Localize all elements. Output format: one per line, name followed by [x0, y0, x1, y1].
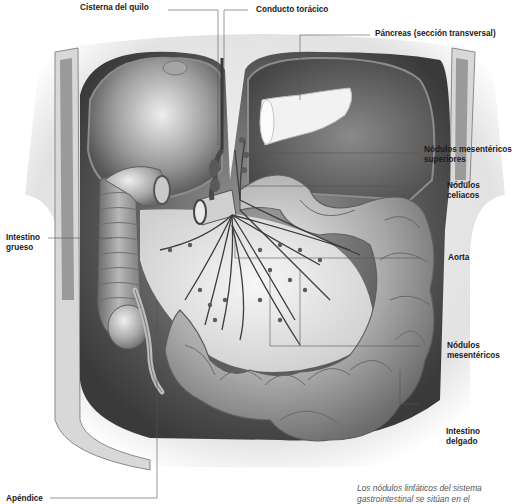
label-text-line2: delgado [446, 437, 480, 447]
label-intestino-delgado: Intestino delgado [446, 427, 480, 447]
label-text-line2: superiores [424, 155, 512, 165]
label-apendice: Apéndice [6, 494, 43, 504]
label-text: Cisterna del quilo [80, 3, 149, 13]
label-cisterna-del-quilo: Cisterna del quilo [80, 3, 149, 13]
label-text-line2: grueso [6, 243, 40, 253]
label-conducto-toracico: Conducto torácico [256, 5, 328, 15]
label-text-line1: Nódulos [447, 181, 480, 191]
label-text-line1: Nódulos mesentéricos [424, 145, 512, 155]
label-pancreas: Páncreas (sección transversal) [375, 29, 496, 39]
caption-line2: gastrointestinal se sitúan en el [357, 494, 482, 504]
label-nodulos-mesentericos: Nódulos mesentéricos [447, 341, 500, 361]
label-intestino-grueso: Intestino grueso [6, 233, 40, 253]
anatomy-figure: Cisterna del quilo Conducto torácico Pán… [0, 0, 530, 504]
label-nodulos-celiacos: Nódulos celiacos [447, 181, 480, 201]
figure-caption: Los nódulos linfáticos del sistema gastr… [357, 483, 482, 504]
label-text: Apéndice [6, 494, 43, 504]
label-text: Páncreas (sección transversal) [375, 29, 496, 39]
label-text: Conducto torácico [256, 5, 328, 15]
label-text: Aorta [448, 253, 469, 263]
label-aorta: Aorta [448, 253, 469, 263]
caption-line1: Los nódulos linfáticos del sistema [357, 483, 482, 494]
label-text-line1: Intestino [446, 427, 480, 437]
label-text-line2: mesentéricos [447, 351, 500, 361]
label-nodulos-mesentericos-superiores: Nódulos mesentéricos superiores [424, 145, 512, 165]
label-text-line2: celiacos [447, 191, 480, 201]
label-text-line1: Nódulos [447, 341, 500, 351]
label-text-line1: Intestino [6, 233, 40, 243]
